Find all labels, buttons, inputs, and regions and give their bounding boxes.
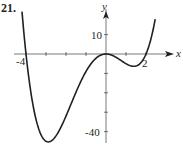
x-tick-label-neg4: -4 bbox=[16, 56, 25, 67]
x-tick-label-2: 2 bbox=[142, 58, 148, 69]
problem-number: 21. bbox=[1, 2, 16, 14]
y-tick-label-10: 10 bbox=[91, 30, 102, 41]
function-graph bbox=[0, 0, 183, 144]
axis-ticks bbox=[26, 35, 146, 132]
y-axis-label: y bbox=[102, 1, 107, 12]
function-curve bbox=[22, 12, 155, 142]
x-axis-label: x bbox=[176, 48, 181, 59]
y-tick-label-neg40: -40 bbox=[85, 127, 100, 138]
